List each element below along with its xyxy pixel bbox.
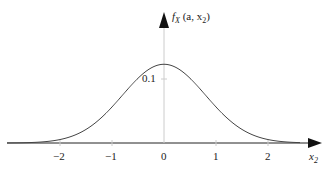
x-tick-label: −2: [53, 150, 65, 162]
y-axis-label: fX (a, x2): [172, 10, 210, 25]
x-axis-arrow-icon: [308, 138, 322, 148]
y-tick-label: 0.1: [142, 72, 156, 84]
x-tick-label: 1: [213, 150, 219, 162]
chart-canvas: [0, 0, 330, 172]
y-axis-arrow-icon: [159, 12, 169, 28]
x-tick-label: 0: [161, 150, 167, 162]
x-tick-label: −1: [105, 150, 117, 162]
x-axis-label: x2: [309, 150, 318, 165]
x-tick-label: 2: [265, 150, 271, 162]
